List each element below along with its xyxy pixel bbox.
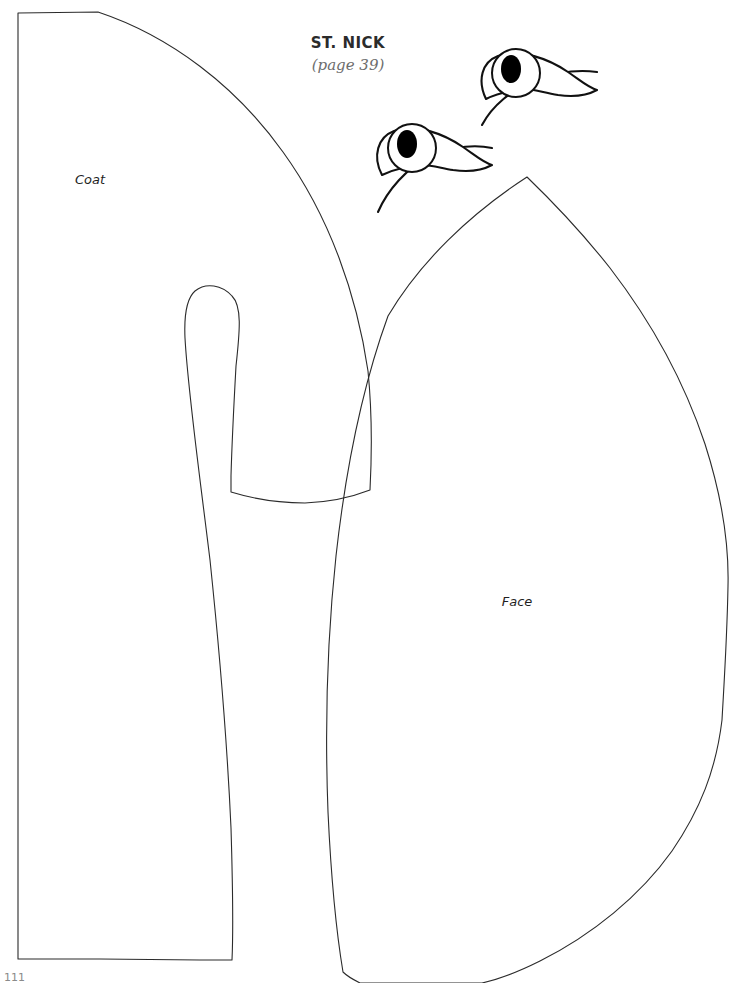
page-title: ST. NICK (311, 34, 386, 52)
pattern-sheet: ST. NICK (page 39) Coat Face 111 (0, 0, 743, 983)
eye-upper-pupil (501, 55, 521, 83)
page-subtitle: (page 39) (312, 56, 385, 74)
face-label: Face (502, 594, 533, 609)
eye-lower-pupil (397, 130, 417, 158)
coat-label: Coat (75, 172, 106, 187)
page-background (0, 0, 743, 983)
folio-number: 111 (4, 971, 25, 983)
pattern-artwork: ST. NICK (page 39) Coat Face 111 (0, 0, 743, 983)
